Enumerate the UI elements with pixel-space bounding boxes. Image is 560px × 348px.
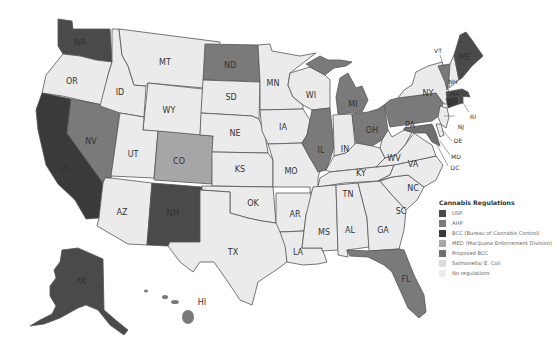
legend-title: Cannabis Regulations [439,199,557,206]
label-wy: WY [163,106,176,115]
label-ca: CA [57,163,69,172]
label-dc: DC [451,164,460,171]
legend-label: USP [452,210,462,217]
label-in: IN [341,145,349,154]
label-mo: MO [284,167,297,176]
label-sc: SC [396,207,407,216]
label-az: AZ [117,208,128,217]
label-wv: WV [387,154,401,163]
legend-swatch [439,230,446,237]
legend-item-bcc: BCC (Bureau of Cannabis Control) [439,230,557,237]
label-nj: NJ [458,123,464,131]
label-nc: NC [407,184,419,193]
label-me: ME [459,53,471,62]
label-hi: HI [198,298,206,307]
legend-label: Proposed BCC [452,250,488,257]
label-ia: IA [279,123,287,132]
label-ny: NY [423,89,434,98]
state-ak[interactable] [30,248,128,335]
legend-swatch [439,210,446,217]
legend: Cannabis Regulations USP AHP BCC (Bureau… [439,199,557,280]
legend-label: MED (Marijuana Enforcement Division) [452,240,552,247]
label-tn: TN [342,190,354,199]
legend-label: AHP [452,220,463,227]
label-nm: NM [167,209,180,218]
label-nh: NH [449,78,458,85]
label-co: CO [173,157,185,166]
label-ga: GA [377,226,389,235]
label-tx: TX [227,248,239,257]
label-ak: AK [76,277,87,286]
label-wi: WI [306,91,316,100]
legend-swatch [439,240,446,247]
legend-label: No regulations [452,270,490,277]
us-states-map: WA OR CA NV ID MT WY UT CO AZ NM ND SD N… [0,0,560,348]
label-ut: UT [128,150,139,159]
label-ok: OK [247,199,259,208]
label-va: VA [408,160,419,169]
label-nd: ND [224,61,236,70]
label-de: DE [454,137,463,144]
label-ms: MS [318,228,330,237]
label-id: ID [116,88,125,97]
state-fl[interactable] [347,249,426,318]
label-ma: MA [450,90,460,97]
label-la: LA [293,248,304,257]
label-al: AL [345,226,355,235]
legend-swatch [439,260,446,267]
label-mi: MI [348,100,357,109]
label-fl: FL [401,275,411,284]
legend-item-ahp: AHP [439,220,557,227]
label-ks: KS [235,165,245,174]
state-ri[interactable] [458,96,463,104]
label-ky: KY [356,169,366,178]
label-ne: NE [229,129,240,138]
legend-item-no-regulations: No regulations [439,270,557,277]
label-ar: AR [289,210,300,219]
label-or: OR [66,77,78,86]
legend-swatch [439,270,446,277]
legend-label: BCC (Bureau of Cannabis Control) [452,230,540,237]
label-vt: VT [434,47,442,54]
label-sd: SD [225,93,236,102]
legend-swatch [439,250,446,257]
legend-label: Salmonella/ E. Coli [452,260,500,267]
label-mt: MT [159,58,171,67]
state-hi[interactable] [144,290,194,325]
label-oh: OH [366,126,378,135]
legend-item-salmonella: Salmonella/ E. Coli [439,260,557,267]
legend-swatch [439,220,446,227]
legend-item-med: MED (Marijuana Enforcement Division) [439,240,557,247]
label-nv: NV [85,137,97,146]
label-il: IL [318,146,325,155]
legend-item-usp: USP [439,210,557,217]
legend-item-proposed-bcc: Proposed BCC [439,250,557,257]
label-wa: WA [74,38,87,47]
label-mn: MN [267,79,280,88]
label-pa: PA [405,121,415,130]
label-ct: CT [447,99,455,106]
label-ri: RI [470,113,476,120]
label-md: MD [451,153,461,160]
